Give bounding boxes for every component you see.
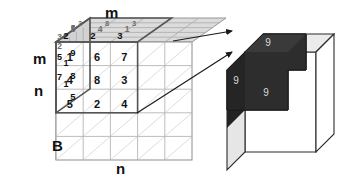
diagram-svg: 1 6 7 4 8 3 5 2 4 3 8 3 5 4 1 [0,0,337,184]
cell-value: 3 [121,74,127,86]
cell-value: 5 [70,91,76,102]
cell-value: 8 [70,70,75,81]
cell-value: 7 [121,51,127,63]
cell-value: 4 [121,98,128,110]
result-value-top: 9 [265,37,271,48]
cell-value: 8 [94,74,100,86]
cell-value: 9 [70,47,75,58]
left-cube: 1 6 7 4 8 3 5 2 4 3 8 3 5 4 1 [56,18,226,160]
label-left-m: m [33,51,46,66]
cell-value: 2 [94,98,100,110]
cell-value: 7 [57,72,62,82]
diagram-canvas: 1 6 7 4 8 3 5 2 4 3 8 3 5 4 1 [0,0,337,184]
cell-value: 3 [78,19,82,28]
label-top-m: m [105,5,118,20]
cell-value: 5 [71,23,76,33]
label-bottom-n: n [116,161,125,176]
cell-value: 6 [94,51,100,63]
cell-value: 1 [63,79,68,89]
cell-value: 2 [63,30,68,41]
cell-value: 1 [125,24,130,34]
cell-value: 5 [57,52,62,62]
cell-value: 4 [98,24,103,34]
result-value-left: 9 [233,75,239,86]
cell-value: 3 [117,30,122,41]
cell-value: 2 [57,41,62,51]
cell-value: 3 [132,19,136,28]
label-b: B [52,138,63,153]
cell-value: 2 [90,30,95,41]
result-value-front: 9 [263,87,269,98]
cell-value: 1 [63,58,68,68]
right-cube: 9 9 9 [227,34,334,170]
label-left-n: n [34,83,43,98]
